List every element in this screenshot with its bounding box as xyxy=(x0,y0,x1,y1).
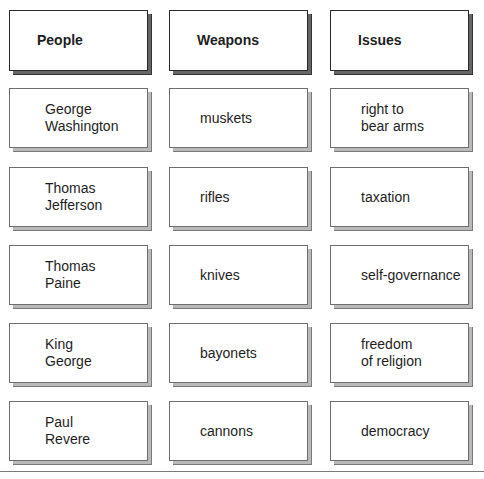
card-weapons-2[interactable]: rifles xyxy=(169,167,308,227)
card-body: rifles xyxy=(170,168,307,226)
card-weapons-5[interactable]: cannons xyxy=(169,401,308,461)
card-body: People xyxy=(10,11,147,70)
card-label: freedom of religion xyxy=(361,336,422,370)
card-label: Thomas Jefferson xyxy=(45,180,102,214)
card-label: self-governance xyxy=(361,267,461,284)
card-body: taxation xyxy=(331,168,468,226)
card-label: knives xyxy=(200,267,240,284)
column-header-label: Weapons xyxy=(197,32,259,49)
card-weapons-1[interactable]: muskets xyxy=(169,88,308,148)
card-body: right to bear arms xyxy=(331,89,468,147)
card-body: democracy xyxy=(331,402,468,460)
card-label: George Washington xyxy=(45,101,118,135)
card-body: self-governance xyxy=(331,246,468,304)
card-label: bayonets xyxy=(200,345,257,362)
column-header-label: Issues xyxy=(358,32,402,49)
card-label: right to bear arms xyxy=(361,101,424,135)
card-body: Thomas Paine xyxy=(10,246,147,304)
column-header-label: People xyxy=(37,32,83,49)
card-people-2[interactable]: Thomas Jefferson xyxy=(9,167,148,227)
card-label: democracy xyxy=(361,423,429,440)
card-label: King George xyxy=(45,336,92,370)
card-label: cannons xyxy=(200,423,253,440)
card-body: Paul Revere xyxy=(10,402,147,460)
card-label: taxation xyxy=(361,189,410,206)
card-people-5[interactable]: Paul Revere xyxy=(9,401,148,461)
card-issues-2[interactable]: taxation xyxy=(330,167,469,227)
card-people-1[interactable]: George Washington xyxy=(9,88,148,148)
card-label: muskets xyxy=(200,110,252,127)
card-label: rifles xyxy=(200,189,230,206)
column-header-people: People xyxy=(9,10,148,71)
card-body: Weapons xyxy=(170,11,307,70)
bottom-divider xyxy=(0,471,484,472)
card-issues-5[interactable]: democracy xyxy=(330,401,469,461)
card-body: George Washington xyxy=(10,89,147,147)
card-weapons-3[interactable]: knives xyxy=(169,245,308,305)
card-body: muskets xyxy=(170,89,307,147)
card-body: Thomas Jefferson xyxy=(10,168,147,226)
card-issues-3[interactable]: self-governance xyxy=(330,245,469,305)
card-body: cannons xyxy=(170,402,307,460)
card-issues-1[interactable]: right to bear arms xyxy=(330,88,469,148)
card-people-3[interactable]: Thomas Paine xyxy=(9,245,148,305)
card-issues-4[interactable]: freedom of religion xyxy=(330,323,469,383)
card-body: King George xyxy=(10,324,147,382)
card-body: bayonets xyxy=(170,324,307,382)
card-weapons-4[interactable]: bayonets xyxy=(169,323,308,383)
column-header-weapons: Weapons xyxy=(169,10,308,71)
column-header-issues: Issues xyxy=(330,10,469,71)
card-label: Thomas Paine xyxy=(45,258,96,292)
card-label: Paul Revere xyxy=(45,414,90,448)
card-body: Issues xyxy=(331,11,468,70)
card-people-4[interactable]: King George xyxy=(9,323,148,383)
card-body: knives xyxy=(170,246,307,304)
card-body: freedom of religion xyxy=(331,324,468,382)
